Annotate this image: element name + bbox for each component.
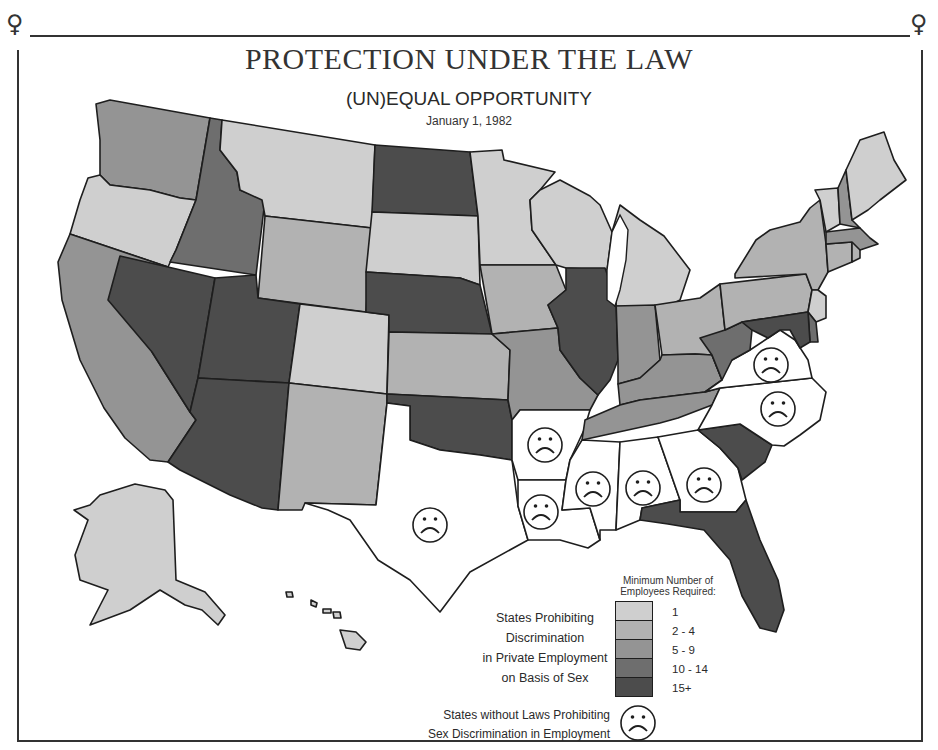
state-hi-island [286,592,293,597]
frown-face-icon [626,471,660,505]
legend-description-line: on Basis of Sex [470,668,620,688]
legend-label: 10 - 14 [672,660,708,679]
legend-heading-line: Minimum Number of [598,575,738,586]
state-ct [826,242,852,272]
state-ak [74,484,225,625]
state-hi-island [323,609,331,613]
legend-description-line: in Private Employment [470,648,620,668]
legend-heading: Minimum Number of Employees Required: [598,575,738,597]
legend-label: 15+ [672,679,708,698]
legend-label: 2 - 4 [672,622,708,641]
state-me [846,132,906,220]
state-hi [340,630,366,650]
state-nm [278,383,387,510]
no-law-line: Sex Discrimination in Employment [400,725,610,744]
frown-face-icon [618,703,658,743]
legend-description: States Prohibiting Discrimination in Pri… [470,608,620,688]
legend-swatch [616,659,652,678]
frown-face-icon [528,428,562,462]
state-ks [387,332,510,400]
legend-swatch [616,678,652,696]
legend-swatch-scale [615,601,653,697]
legend-description-line: States Prohibiting [470,608,620,628]
frown-face-icon [761,392,795,426]
state-hi-island [311,600,317,607]
us-map [0,0,938,750]
legend-label: 5 - 9 [672,641,708,660]
legend-swatch [616,640,652,659]
state-ia [480,265,566,334]
legend-description-line: Discrimination [470,628,620,648]
state-co [289,304,389,394]
frown-face-icon [413,508,447,542]
no-law-line: States without Laws Prohibiting [400,706,610,725]
state-fl [640,500,784,632]
state-wy [258,216,372,312]
frown-face-icon [687,468,721,502]
frown-face-icon [524,495,558,529]
state-hi-island [333,612,341,618]
legend-swatch [616,602,652,621]
frown-face-icon [754,348,788,382]
frown-face-icon [576,472,610,506]
legend-swatch [616,621,652,640]
legend-label: 1 [672,603,708,622]
legend-heading-line: Employees Required: [598,586,738,597]
no-law-legend-text: States without Laws Prohibiting Sex Disc… [400,706,610,744]
state-nd [372,145,478,216]
legend-labels: 1 2 - 4 5 - 9 10 - 14 15+ [672,603,708,698]
